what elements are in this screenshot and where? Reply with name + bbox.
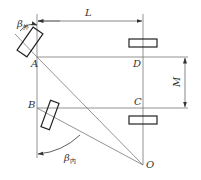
- point-label-A: A: [30, 58, 38, 69]
- dimension-label-L: L: [84, 7, 92, 18]
- point-label-O: O: [146, 159, 154, 170]
- point-label-B: B: [27, 99, 35, 110]
- dimension-label-M: M: [171, 76, 182, 88]
- point-label-C: C: [134, 96, 142, 107]
- angle-label-outer: β外: [16, 18, 29, 31]
- mirror-A: [17, 27, 43, 57]
- inner-angle-arc: [38, 135, 80, 154]
- geometry-diagram: β外 L A D B C O M β内: [0, 0, 201, 180]
- line-AO: [37, 57, 143, 165]
- line-BO: [37, 108, 143, 165]
- point-label-D: D: [132, 58, 141, 69]
- angle-label-inner: β内: [63, 152, 76, 165]
